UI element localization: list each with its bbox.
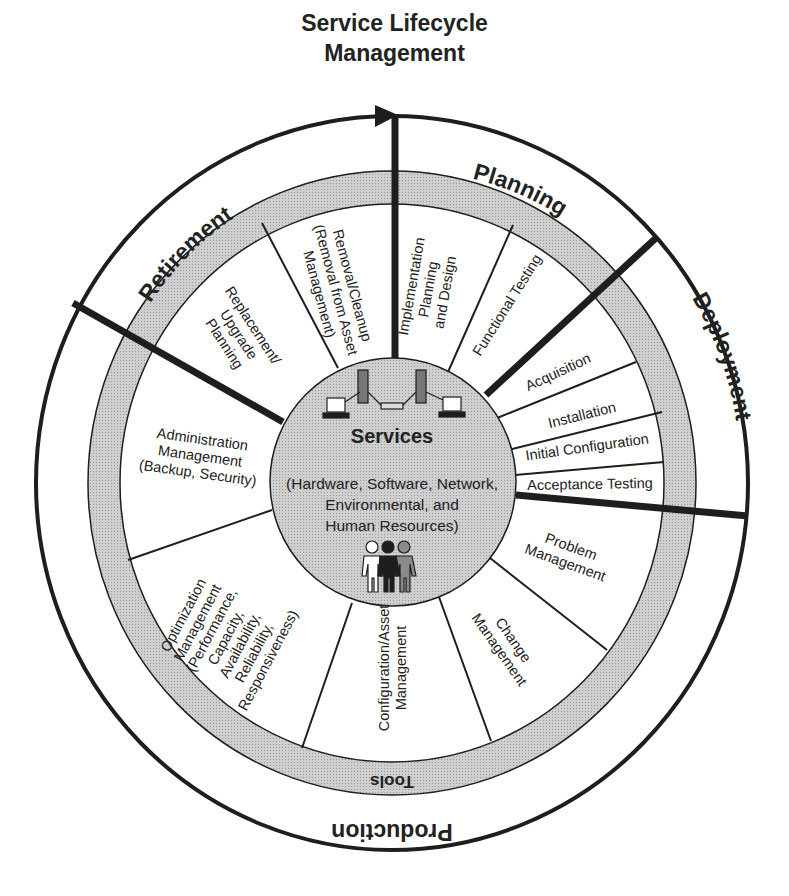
tools-label: Tools: [370, 772, 414, 791]
phase-production-label: Production: [331, 819, 452, 845]
services-subtitle-3: Human Resources): [325, 517, 459, 534]
services-subtitle-2: Environmental, and: [325, 496, 459, 513]
activity-acceptance-testing: Acceptance Testing: [527, 475, 653, 493]
lifecycle-wheel: Retirement Planning Deployment Productio…: [0, 0, 789, 896]
svg-text:Acceptance Testing: Acceptance Testing: [527, 475, 653, 493]
services-subtitle-1: (Hardware, Software, Network,: [286, 475, 498, 492]
svg-text:Management: Management: [393, 626, 409, 711]
svg-text:Configuration/Asset: Configuration/Asset: [376, 605, 392, 732]
services-title: Services: [351, 425, 433, 447]
